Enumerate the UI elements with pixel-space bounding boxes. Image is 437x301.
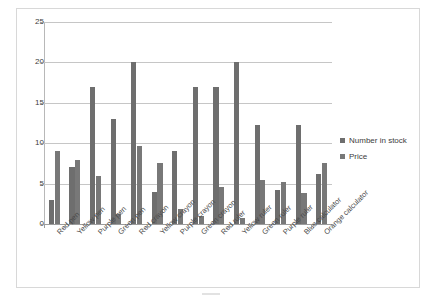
bar — [199, 216, 204, 224]
bar — [301, 193, 306, 224]
bar — [152, 192, 157, 224]
bar — [193, 87, 198, 224]
bar — [296, 125, 301, 224]
x-tick-mark — [44, 224, 45, 228]
legend-swatch-icon — [340, 154, 345, 159]
legend-label: Number in stock — [349, 136, 407, 145]
bar — [234, 62, 239, 224]
x-tick-mark — [209, 224, 210, 228]
legend-swatch-icon — [340, 138, 345, 143]
bar — [137, 146, 142, 224]
bars-layer — [44, 22, 332, 224]
bar — [157, 163, 162, 224]
x-tick-mark — [85, 224, 86, 228]
bar — [255, 125, 260, 224]
y-axis: 2520151050 — [0, 0, 44, 240]
bar — [131, 62, 136, 224]
x-tick-mark — [311, 224, 312, 228]
bar — [116, 214, 121, 224]
x-tick-mark — [167, 224, 168, 228]
bar — [240, 218, 245, 224]
x-tick-mark — [229, 224, 230, 228]
bar — [178, 209, 183, 224]
bar — [111, 119, 116, 224]
bar — [322, 163, 327, 224]
bar — [172, 151, 177, 224]
x-tick-mark — [291, 224, 292, 228]
x-tick-mark — [126, 224, 127, 228]
legend-item[interactable]: Number in stock — [340, 136, 432, 145]
bar — [69, 167, 74, 224]
bar — [316, 174, 321, 224]
x-tick-mark — [332, 224, 333, 228]
bar — [281, 182, 286, 224]
bar — [219, 187, 224, 224]
bar — [90, 87, 95, 224]
x-tick-mark — [270, 224, 271, 228]
x-tick-mark — [250, 224, 251, 228]
legend-label: Price — [349, 152, 367, 161]
bar-chart: 2520151050 Red penYellow penPurple penGr… — [0, 0, 437, 301]
chart-legend: Number in stockPrice — [340, 136, 432, 168]
bar — [260, 180, 265, 224]
bar — [96, 176, 101, 224]
x-tick-mark — [106, 224, 107, 228]
x-tick-mark — [65, 224, 66, 228]
bar — [275, 190, 280, 224]
bar — [49, 200, 54, 224]
bar — [55, 151, 60, 224]
legend-item[interactable]: Price — [340, 152, 432, 161]
bar — [75, 160, 80, 224]
bar — [213, 87, 218, 224]
x-tick-mark — [147, 224, 148, 228]
scan-artifact — [202, 293, 220, 295]
x-tick-mark — [188, 224, 189, 228]
